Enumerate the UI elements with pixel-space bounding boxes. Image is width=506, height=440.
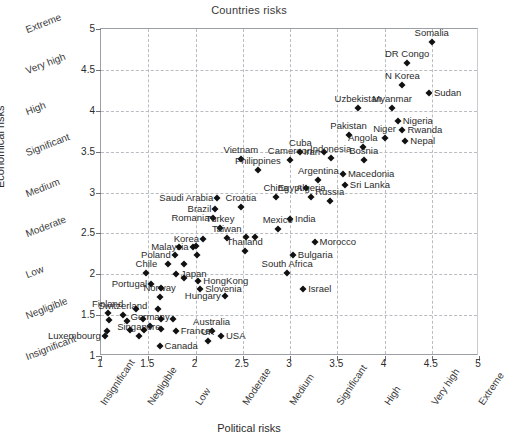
data-point[interactable] — [381, 134, 388, 141]
data-point-label: India — [295, 214, 316, 224]
y-axis-tick — [96, 193, 101, 194]
data-point[interactable] — [326, 197, 333, 204]
data-point[interactable] — [307, 193, 314, 200]
data-point[interactable] — [254, 167, 261, 174]
gridline-horizontal — [101, 233, 477, 234]
x-axis-tick-label: 4 — [381, 358, 387, 369]
data-point[interactable] — [172, 327, 179, 334]
y-axis-tick — [96, 315, 101, 316]
y-axis-tick — [96, 233, 101, 234]
data-point[interactable] — [360, 156, 367, 163]
data-point[interactable] — [181, 261, 188, 268]
data-point-label: USA — [226, 331, 246, 341]
data-point[interactable] — [272, 193, 279, 200]
data-point[interactable] — [105, 316, 112, 323]
data-point[interactable] — [327, 155, 334, 162]
data-point-label: UK — [201, 327, 214, 337]
x-axis-category-label: Insignificant — [98, 357, 137, 407]
data-point[interactable] — [286, 156, 293, 163]
plot-area: SomaliaDR CongoN KoreaSudanMyanmarUzbeki… — [100, 28, 478, 355]
y-axis-tick — [96, 111, 101, 112]
data-point[interactable] — [274, 226, 281, 233]
gridline-horizontal — [101, 70, 477, 71]
data-point-label: Singapore — [117, 321, 160, 331]
data-point[interactable] — [402, 137, 409, 144]
gridline-horizontal — [101, 111, 477, 112]
data-point[interactable] — [156, 294, 163, 301]
y-axis-category-label: Negligible — [24, 295, 69, 321]
data-point[interactable] — [165, 261, 172, 268]
x-axis-tick-label: 3 — [286, 358, 292, 369]
data-point[interactable] — [311, 238, 318, 245]
data-point[interactable] — [172, 271, 179, 278]
data-point-label: Uzbekistan — [335, 94, 382, 104]
data-point[interactable] — [399, 127, 406, 134]
x-axis-category-label: Very high — [429, 366, 461, 407]
data-point[interactable] — [169, 316, 176, 323]
data-point-label: Angola — [348, 132, 378, 142]
data-point[interactable] — [217, 332, 224, 339]
x-axis-title: Political risks — [0, 422, 498, 434]
data-point[interactable] — [200, 236, 207, 243]
data-point-label: Nepal — [410, 136, 435, 146]
data-point-label: Macedonia — [348, 169, 394, 179]
data-point[interactable] — [157, 325, 164, 332]
x-axis-category-label: High — [382, 384, 403, 407]
y-axis-tick — [96, 356, 101, 357]
data-point[interactable] — [214, 195, 221, 202]
data-point-label: Israel — [308, 284, 331, 294]
data-point[interactable] — [156, 343, 163, 350]
data-point[interactable] — [171, 252, 178, 259]
data-point-label: South Africa — [262, 258, 313, 268]
data-point-label: Argentina — [298, 166, 339, 176]
data-point-label: Sri Lanka — [350, 180, 390, 190]
y-axis-tick-label: 2 — [89, 268, 95, 279]
y-axis-tick — [96, 70, 101, 71]
data-point[interactable] — [194, 251, 201, 258]
data-point-label: Portugal — [112, 279, 147, 289]
y-axis-category-label: High — [24, 99, 47, 117]
data-point[interactable] — [339, 170, 346, 177]
data-point-label: Somalia — [415, 28, 449, 38]
data-point-label: Cameroon — [268, 145, 312, 155]
data-point[interactable] — [404, 59, 411, 66]
x-axis-tick-label: 2 — [192, 358, 198, 369]
y-axis-tick — [96, 29, 101, 30]
data-point-label: Bosnia — [349, 145, 378, 155]
data-point[interactable] — [135, 332, 142, 339]
data-point-label: Indonesia — [310, 144, 351, 154]
data-point-label: Pakistan — [330, 121, 366, 131]
data-point-label: Saudi Arabia — [159, 193, 213, 203]
data-point-label: Philippines — [235, 156, 281, 166]
data-point[interactable] — [221, 293, 228, 300]
x-axis-category-label: Extreme — [476, 370, 506, 407]
chart-title: Countries risks — [0, 4, 498, 16]
y-axis-tick-label: 5 — [89, 23, 95, 34]
x-axis-category-label: Medium — [287, 372, 316, 408]
gridline-vertical — [432, 29, 433, 354]
data-point[interactable] — [300, 285, 307, 292]
data-point-label: Rwanda — [407, 126, 442, 136]
data-point-label: Taiwan — [212, 224, 242, 234]
data-point-label: Sudan — [434, 88, 461, 98]
x-axis-category-label: Low — [193, 386, 212, 407]
data-point[interactable] — [212, 205, 219, 212]
y-axis-tick — [96, 152, 101, 153]
data-point[interactable] — [428, 39, 435, 46]
data-point[interactable] — [399, 81, 406, 88]
data-point[interactable] — [204, 338, 211, 345]
data-point-label: China — [263, 182, 288, 192]
data-point-label: Morocco — [320, 237, 356, 247]
x-axis-tick-label: 3.5 — [329, 358, 343, 369]
y-axis-title: Economical risks — [0, 105, 6, 188]
data-point-label: Canada — [165, 341, 198, 351]
y-axis-tick-label: 3.5 — [81, 145, 95, 156]
data-point-label: Russia — [315, 186, 344, 196]
y-axis-category-label: Significant — [24, 131, 71, 158]
y-axis-tick-label: 2.5 — [81, 227, 95, 238]
gridline-vertical — [148, 29, 149, 354]
data-point-label: N Korea — [385, 70, 420, 80]
data-point-label: Romania — [171, 213, 209, 223]
y-axis-tick-label: 1 — [89, 350, 95, 361]
